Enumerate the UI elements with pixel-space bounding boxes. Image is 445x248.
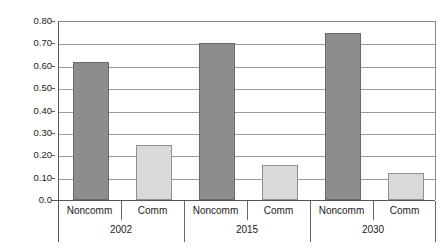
- group-separator: [184, 201, 185, 242]
- y-axis-tick-mark: [51, 66, 55, 67]
- y-axis-tick-mark: [51, 43, 55, 44]
- bar: [136, 145, 172, 200]
- y-axis-tick-label: 0.30: [34, 128, 53, 138]
- gridline: [59, 156, 435, 157]
- bar-chart: Relative contribution 0.800.700.600.500.…: [0, 0, 445, 248]
- group-label: 2015: [184, 223, 310, 237]
- y-axis-tick-mark: [51, 133, 55, 134]
- group-label: 2030: [310, 223, 436, 237]
- gridline: [59, 112, 435, 113]
- category-separator: [373, 201, 374, 220]
- bar: [199, 43, 235, 200]
- group-label: 2002: [58, 223, 184, 237]
- bar: [262, 165, 298, 200]
- bar: [325, 33, 361, 200]
- gridline: [59, 89, 435, 90]
- y-axis-tick-labels: 0.800.700.600.500.400.300.200.100.0: [22, 0, 55, 248]
- y-axis-tick-label: 0.40: [34, 106, 53, 116]
- gridline: [59, 179, 435, 180]
- bar: [388, 173, 424, 200]
- lower-frame-left: [58, 201, 59, 242]
- y-axis-tick-mark: [51, 21, 55, 22]
- plot-area: [58, 21, 436, 200]
- group-label-band: 200220152030: [58, 221, 436, 243]
- category-separator: [121, 201, 122, 220]
- y-axis-tick-label: 0.70: [34, 38, 53, 48]
- y-axis-tick-label: 0.50: [34, 83, 53, 93]
- y-axis-tick-mark: [51, 178, 55, 179]
- category-label: Noncomm: [184, 204, 247, 218]
- gridline: [59, 67, 435, 68]
- gridline: [59, 44, 435, 45]
- category-label: Comm: [373, 204, 436, 218]
- gridline: [59, 134, 435, 135]
- group-separator: [310, 201, 311, 242]
- y-axis-tick-label: 0.10: [34, 173, 53, 183]
- y-axis-tick-label: 0.80: [34, 16, 53, 26]
- y-axis-tick-mark: [51, 88, 55, 89]
- bar: [73, 62, 109, 200]
- category-label: Comm: [247, 204, 310, 218]
- category-label: Comm: [121, 204, 184, 218]
- category-separator: [247, 201, 248, 220]
- y-axis-tick-mark: [51, 155, 55, 156]
- y-axis-tick-label: 0.20: [34, 150, 53, 160]
- y-axis-tick-mark: [51, 111, 55, 112]
- y-axis-tick-label: 0.60: [34, 61, 53, 71]
- category-label: Noncomm: [310, 204, 373, 218]
- category-label: Noncomm: [58, 204, 121, 218]
- lower-frame-right: [435, 201, 436, 242]
